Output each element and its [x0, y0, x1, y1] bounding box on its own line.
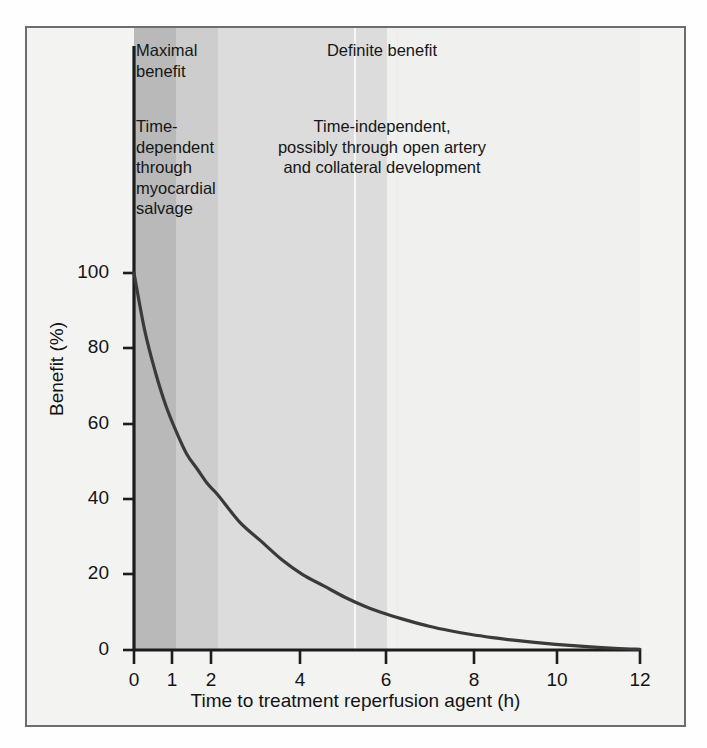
x-tick-label-10: 10 [535, 669, 579, 691]
figure-frame: 100 80 60 40 20 0 0 1 2 4 6 8 10 12 Time… [25, 26, 686, 727]
x-tick-label-8: 8 [452, 669, 496, 691]
annotation-definite-benefit: Definite benefit [222, 40, 542, 61]
x-tick-label-6: 6 [364, 669, 408, 691]
y-tick-label-20: 20 [57, 562, 109, 584]
x-tick-marks [134, 650, 640, 664]
annotation-time-independent: Time-independent, possibly through open … [172, 116, 592, 178]
y-tick-label-40: 40 [57, 487, 109, 509]
plot-surface: 100 80 60 40 20 0 0 1 2 4 6 8 10 12 Time… [27, 28, 684, 725]
x-tick-label-1: 1 [150, 669, 194, 691]
annotation-maximal-benefit: Maximal benefit [136, 40, 197, 81]
x-tick-label-12: 12 [618, 669, 662, 691]
y-tick-marks [123, 273, 134, 650]
y-axis-title: Benefit (%) [46, 279, 68, 459]
x-tick-label-2: 2 [189, 669, 233, 691]
x-tick-label-4: 4 [278, 669, 322, 691]
figure-page: 100 80 60 40 20 0 0 1 2 4 6 8 10 12 Time… [0, 0, 707, 748]
y-tick-label-0: 0 [57, 638, 109, 660]
benefit-curve [134, 273, 640, 649]
x-axis-title: Time to treatment reperfusion agent (h) [27, 690, 684, 712]
